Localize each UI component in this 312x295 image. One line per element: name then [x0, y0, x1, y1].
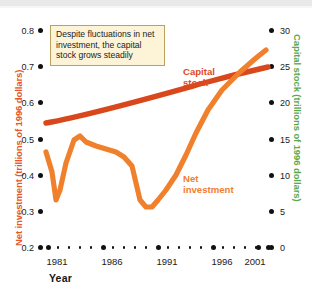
chart-figure: Net investment (trillions of 1996 dollar… — [0, 0, 312, 295]
series-label-net-line1: Net — [183, 173, 234, 184]
annotation-callout: Despite fluctuations in net investment, … — [50, 25, 165, 66]
series-label-capital-stock: Capital stock — [183, 66, 215, 88]
series-label-net-line2: investment — [183, 184, 234, 195]
series-label-net-investment: Net investment — [183, 173, 234, 195]
annotation-text: Despite fluctuations in net investment, … — [56, 29, 160, 61]
series-label-capital-line1: Capital — [183, 66, 215, 77]
series-label-capital-line2: stock — [183, 77, 215, 88]
